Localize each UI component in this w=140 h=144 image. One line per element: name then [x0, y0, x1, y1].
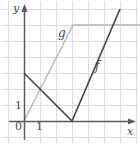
y-axis-arrowhead — [21, 4, 27, 12]
curve-f-label: f — [95, 60, 99, 72]
y-axis-label: y — [13, 3, 19, 14]
x-axis-arrowhead — [128, 118, 136, 124]
x-axis-label: x — [127, 126, 133, 137]
curve-g-label: g — [58, 27, 66, 39]
graph-figure: y x f g 0 1 1 — [0, 0, 140, 144]
origin-tick-label: 0 — [15, 121, 22, 132]
x-tick-label-one: 1 — [36, 121, 43, 132]
y-tick-label-one: 1 — [15, 100, 22, 111]
